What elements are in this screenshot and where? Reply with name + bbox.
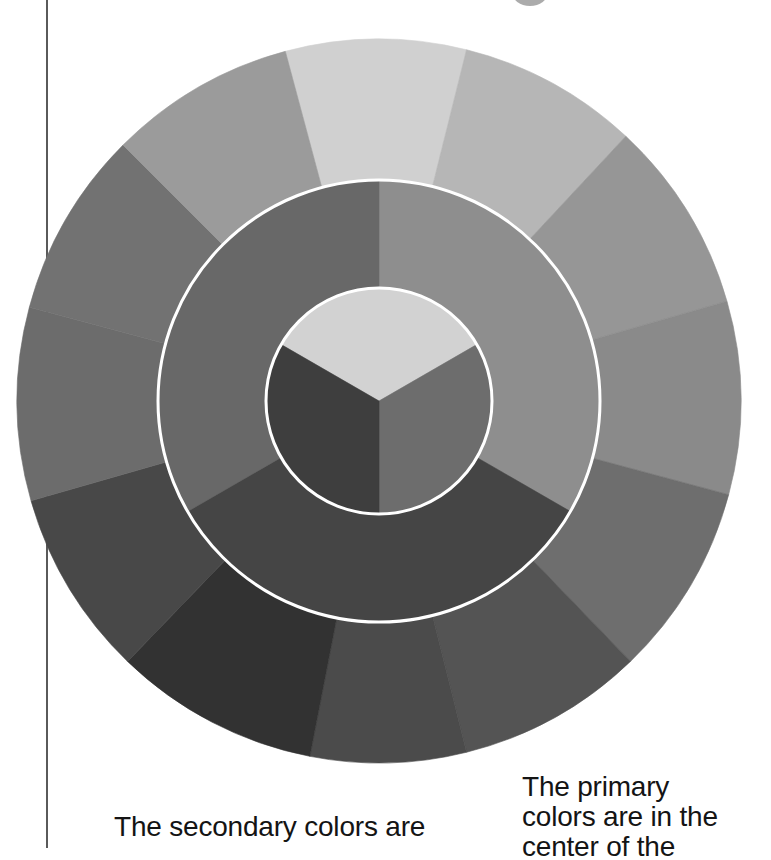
caption-line: The primary [522,772,718,802]
caption-primary-colors: The primary colors are in the center of … [522,772,718,860]
caption-line: colors are in the [522,802,718,832]
caption-line: The secondary colors are [114,812,425,842]
caption-line: center of the [522,832,718,860]
caption-secondary-colors: The secondary colors are [114,812,425,842]
